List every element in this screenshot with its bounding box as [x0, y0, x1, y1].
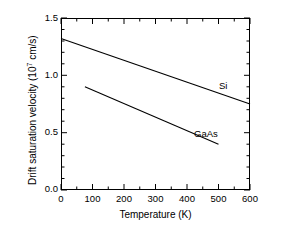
x-axis-major-ticks: [61, 18, 250, 190]
chart-figure: 1.5 1.0 0.5 0.0 0 100 200 300 400 500 60…: [0, 0, 282, 236]
series-label-si: Si: [219, 80, 227, 91]
y-axis-major-ticks: [61, 18, 250, 190]
plot-canvas: [0, 0, 282, 236]
series-label-gaas: GaAs: [194, 128, 218, 139]
data-line-si: [61, 39, 250, 104]
x-axis-minor-ticks: [77, 18, 235, 190]
y-axis-minor-ticks: [61, 30, 250, 179]
